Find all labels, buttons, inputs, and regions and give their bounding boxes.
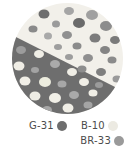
legend-label-b10: B-10 bbox=[81, 120, 105, 131]
legend-label-g31: G-31 bbox=[29, 120, 54, 131]
legend: G-31 B-10 BR-33 bbox=[0, 118, 130, 152]
legend-item-b10: B-10 bbox=[81, 120, 118, 131]
swatch-regions bbox=[11, 2, 124, 115]
legend-swatch-dot-g31 bbox=[57, 121, 67, 131]
legend-swatch-dot-br33 bbox=[114, 136, 124, 146]
color-swatch-figure: G-31 B-10 BR-33 bbox=[0, 0, 130, 152]
legend-row: BR-33 bbox=[0, 133, 130, 148]
legend-swatch-dot-b10 bbox=[108, 121, 118, 131]
swatch-circle bbox=[11, 2, 124, 115]
swatch-circle-graphic bbox=[11, 2, 124, 115]
legend-item-br33: BR-33 bbox=[80, 135, 124, 146]
legend-row: G-31 B-10 bbox=[0, 118, 130, 133]
legend-item-g31: G-31 bbox=[29, 120, 67, 131]
legend-label-br33: BR-33 bbox=[80, 135, 111, 146]
